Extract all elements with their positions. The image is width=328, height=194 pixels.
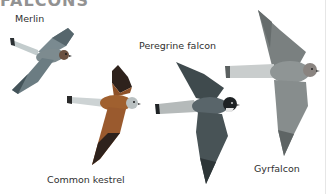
falcons-illustration-page: FALCONS Merlin Common kest — [0, 0, 328, 194]
page-title: FALCONS — [0, 0, 89, 10]
page-edge-divider — [325, 0, 326, 194]
label-merlin: Merlin — [15, 13, 44, 24]
label-common-kestrel: Common kestrel — [47, 174, 125, 185]
label-peregrine-falcon: Peregrine falcon — [139, 40, 216, 51]
label-gyrfalcon: Gyrfalcon — [254, 163, 300, 174]
gyrfalcon-illustration — [222, 8, 322, 158]
common-kestrel-illustration — [64, 63, 144, 169]
